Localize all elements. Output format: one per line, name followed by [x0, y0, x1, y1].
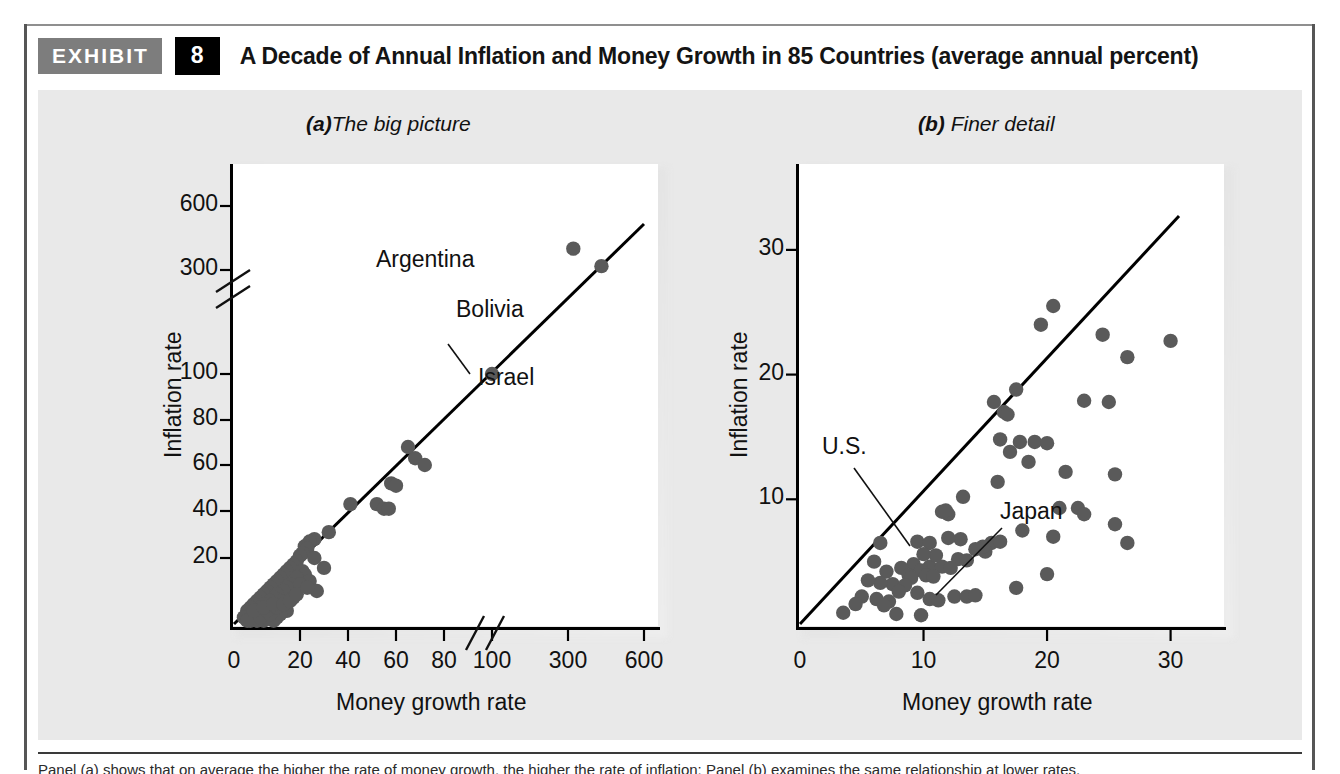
- data-point: [889, 607, 903, 621]
- exhibit-content-panel: (a)The big picture (b) Finer detail Infl…: [38, 90, 1302, 740]
- data-point: [389, 479, 403, 493]
- data-point: [993, 432, 1007, 446]
- data-point: [947, 589, 961, 603]
- exhibit-title: A Decade of Annual Inflation and Money G…: [240, 43, 1199, 70]
- data-point: [1040, 436, 1054, 450]
- data-point: [1028, 435, 1042, 449]
- data-point: [1120, 536, 1134, 550]
- data-point: [960, 553, 974, 567]
- data-point: [566, 241, 580, 255]
- data-point: [956, 490, 970, 504]
- plot-a-y-tick-label-600: 600: [158, 190, 218, 217]
- plot-b-y-tick-label-20: 20: [728, 359, 784, 386]
- chart-panel-a: Inflation rate Money growth rate: [148, 158, 668, 718]
- data-point: [944, 561, 958, 575]
- plot-b-x-tick-label-0: 0: [774, 647, 826, 674]
- data-point: [1003, 445, 1017, 459]
- plot-a-x-tick-label-80: 80: [418, 647, 470, 674]
- data-point: [993, 534, 1007, 548]
- plot-a-x-tick-label-0: 0: [208, 647, 260, 674]
- plot-a-x-tick-label-100: 100: [466, 647, 518, 674]
- plot-a-y-tick-label-300: 300: [158, 254, 218, 281]
- data-point: [873, 536, 887, 550]
- data-point: [931, 593, 945, 607]
- annotation-japan: Japan: [1000, 498, 1063, 525]
- annotation-argentina: Argentina: [376, 246, 474, 273]
- data-point: [1046, 299, 1060, 313]
- data-point: [941, 531, 955, 545]
- data-point: [1058, 465, 1072, 479]
- plot-a-y-tick-label-100: 100: [158, 358, 218, 385]
- data-point: [1077, 394, 1091, 408]
- plot-b-reference-line: [800, 216, 1179, 624]
- data-point: [848, 597, 862, 611]
- data-point: [953, 532, 967, 546]
- plot-b-x-tick-label-30: 30: [1145, 647, 1197, 674]
- exhibit-caption: Panel (a) shows that on average the high…: [38, 760, 1302, 774]
- data-point: [1009, 581, 1023, 595]
- data-point: [910, 534, 924, 548]
- israel-leader-line: [448, 344, 470, 374]
- data-point: [877, 598, 891, 612]
- data-point: [867, 554, 881, 568]
- data-point: [910, 586, 924, 600]
- data-point: [914, 608, 928, 622]
- data-point: [300, 581, 314, 595]
- data-point: [861, 573, 875, 587]
- data-point: [1163, 334, 1177, 348]
- plot-a-x-tick-label-40: 40: [322, 647, 374, 674]
- right-rule: [1312, 24, 1315, 770]
- panel-b-subtitle: (b) Finer detail: [918, 112, 1055, 136]
- plot-a-x-tick-label-600: 600: [618, 647, 670, 674]
- data-point: [939, 503, 953, 517]
- data-point: [1021, 455, 1035, 469]
- data-point: [322, 525, 336, 539]
- plot-a-x-tick-label-300: 300: [542, 647, 594, 674]
- plot-b-x-tick-label-20: 20: [1021, 647, 1073, 674]
- data-point: [1034, 318, 1048, 332]
- annotation-us: U.S.: [822, 433, 867, 460]
- data-point: [929, 548, 943, 562]
- data-point: [1108, 517, 1122, 531]
- plot-a-y-tick-label-20: 20: [158, 542, 218, 569]
- data-point: [1077, 507, 1091, 521]
- panel-a-subtitle: (a)The big picture: [306, 112, 471, 136]
- data-point: [382, 502, 396, 516]
- plot-b-y-tick-label-30: 30: [728, 234, 784, 261]
- plot-a-y-tick-label-80: 80: [158, 404, 218, 431]
- plot-b-graphics: [714, 158, 1234, 718]
- data-point: [1015, 523, 1029, 537]
- plot-a-y-tick-label-60: 60: [158, 449, 218, 476]
- data-point: [873, 576, 887, 590]
- data-point: [317, 561, 331, 575]
- data-point: [418, 458, 432, 472]
- left-rule: [24, 24, 27, 770]
- caption-divider: [38, 752, 1302, 754]
- data-point: [1102, 395, 1116, 409]
- plot-a-y-tick-label-40: 40: [158, 495, 218, 522]
- data-point: [594, 259, 608, 273]
- data-point: [1046, 530, 1060, 544]
- data-point: [1120, 350, 1134, 364]
- data-point: [836, 606, 850, 620]
- plot-b-y-tick-label-10: 10: [728, 483, 784, 510]
- annotation-bolivia: Bolivia: [456, 296, 524, 323]
- chart-panel-b: Inflation rate Money growth rate U.S. Ja…: [714, 158, 1234, 718]
- data-point: [1009, 382, 1023, 396]
- exhibit-number-badge: 8: [175, 37, 220, 75]
- data-point: [916, 547, 930, 561]
- data-point: [343, 497, 357, 511]
- panel-b-letter: (b): [918, 112, 945, 135]
- exhibit-badge: EXHIBIT: [38, 38, 162, 74]
- data-point: [990, 475, 1004, 489]
- top-rule: [24, 24, 1315, 26]
- annotation-israel: Israel: [478, 364, 534, 391]
- panel-a-letter: (a): [306, 112, 332, 135]
- panel-b-title-text: Finer detail: [951, 112, 1055, 135]
- data-point: [1040, 567, 1054, 581]
- plot-a-x-tick-label-20: 20: [274, 647, 326, 674]
- exhibit-figure: EXHIBIT 8 A Decade of Annual Inflation a…: [0, 0, 1340, 774]
- plot-a-y-axis-break: [216, 270, 250, 308]
- data-point: [926, 569, 940, 583]
- exhibit-header: EXHIBIT 8 A Decade of Annual Inflation a…: [38, 34, 1198, 78]
